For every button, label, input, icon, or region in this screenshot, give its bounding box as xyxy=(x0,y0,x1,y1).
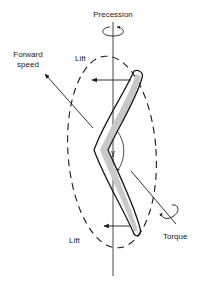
boomerang-diagram: ɣ Precession Forward speed Lift Lift Tor… xyxy=(0,0,201,281)
lift-label-bottom: Lift xyxy=(69,236,80,245)
angle-arc xyxy=(117,131,124,171)
lift-label-top: Lift xyxy=(75,54,86,63)
forward-speed-arrow xyxy=(45,74,93,128)
precession-label: Precession xyxy=(93,10,133,19)
angle-symbol: ɣ xyxy=(111,148,115,157)
forward-speed-label-2: speed xyxy=(17,60,39,69)
torque-axis xyxy=(131,171,176,224)
torque-label: Torque xyxy=(163,232,188,241)
forward-speed-label-1: Forward xyxy=(13,50,42,59)
